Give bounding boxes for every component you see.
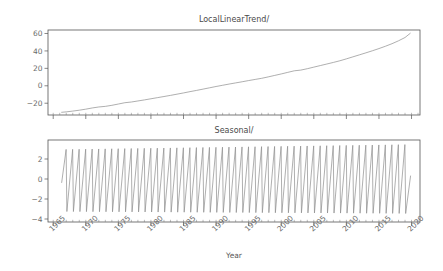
x-tick-label: 2005 [308, 213, 328, 233]
x-tick-label: 2020 [406, 213, 426, 233]
x-tick-label: 1985 [178, 213, 198, 233]
x-tick-label: 1980 [145, 213, 165, 233]
x-tick-label: 1995 [243, 213, 263, 233]
panel-title: LocalLinearTrend/ [199, 15, 269, 24]
data-line [62, 33, 411, 112]
x-tick-label: 2015 [373, 213, 393, 233]
panel-seasonal: Seasonal/−4−2021965197019751980198519901… [31, 126, 425, 260]
x-tick-label: 1975 [112, 213, 132, 233]
data-line [62, 145, 411, 214]
y-tick-label: 40 [33, 47, 43, 56]
x-tick-label: 1990 [210, 213, 230, 233]
panel-title: Seasonal/ [215, 126, 254, 135]
y-tick-label: 60 [33, 29, 43, 38]
panel-trend: LocalLinearTrend/−200204060 [27, 15, 420, 119]
y-tick-label: 0 [38, 81, 43, 90]
y-tick-label: −2 [31, 195, 42, 204]
y-tick-label: −4 [31, 215, 42, 224]
y-tick-label: 20 [33, 64, 43, 73]
x-tick-label: 2010 [340, 213, 360, 233]
axes-frame [48, 30, 420, 115]
plot-svg: LocalLinearTrend/−200204060Seasonal/−4−2… [0, 0, 443, 271]
x-axis-label: Year [225, 251, 243, 260]
figure-canvas: LocalLinearTrend/−200204060Seasonal/−4−2… [0, 0, 443, 271]
y-tick-label: 2 [38, 155, 43, 164]
axes-frame [48, 140, 420, 222]
x-tick-label: 1970 [80, 213, 100, 233]
y-tick-label: 0 [38, 175, 43, 184]
x-tick-label: 1965 [47, 213, 67, 233]
x-tick-label: 2000 [275, 213, 295, 233]
y-tick-label: −20 [27, 99, 43, 108]
